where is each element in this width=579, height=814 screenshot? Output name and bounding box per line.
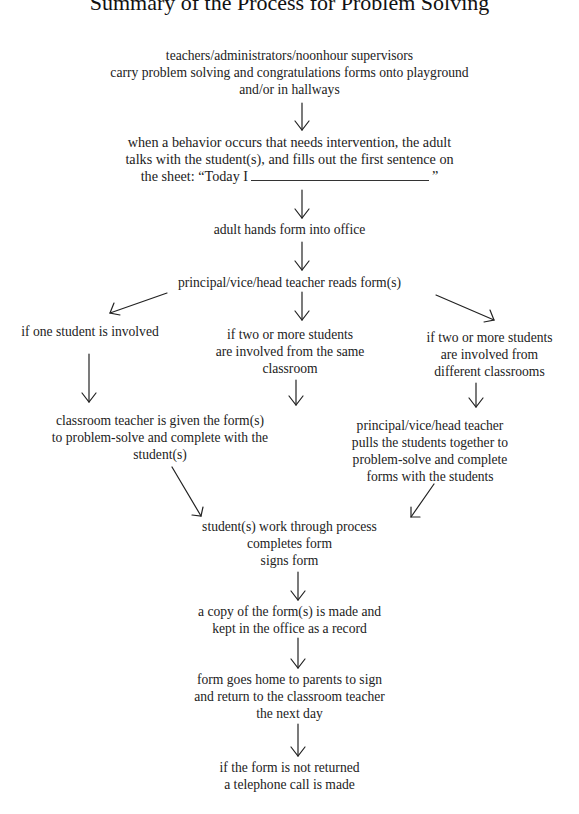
- arrow-merge-left: [172, 467, 203, 516]
- arrow-down-right-branch: [469, 383, 483, 407]
- arrow-down-middle-branch: [289, 380, 303, 405]
- arrow-down-3: [295, 242, 309, 270]
- arrows-layer: [0, 0, 579, 814]
- arrow-down-left-branch: [82, 354, 96, 402]
- arrow-down-4: [291, 572, 305, 600]
- arrow-down-6: [291, 724, 305, 756]
- arrow-right-branch: [436, 295, 494, 322]
- arrow-merge-right: [411, 484, 434, 517]
- arrow-down-2: [295, 190, 309, 218]
- arrow-down-5: [291, 638, 305, 668]
- arrow-down-1: [295, 103, 309, 130]
- arrow-middle-branch: [295, 292, 309, 320]
- arrow-left-branch: [110, 293, 167, 315]
